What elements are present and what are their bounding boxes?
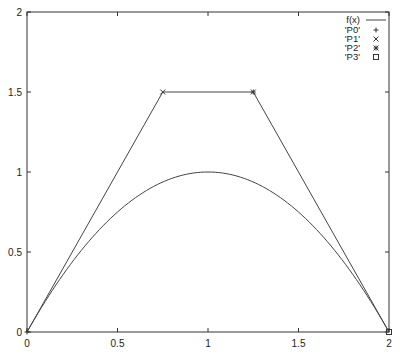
y-tick-label: 0 [16, 327, 22, 338]
series-fx-curve [27, 172, 389, 332]
bezier-chart: 00.511.5200.511.52 f(x)'P0''P1''P2''P3' [0, 0, 402, 356]
legend: f(x)'P0''P1''P2''P3' [345, 14, 386, 62]
y-tick-label: 1.5 [8, 87, 22, 98]
x-tick-label: 0.5 [111, 338, 125, 349]
x-tick-label: 1 [205, 338, 211, 349]
legend-marker-p3-icon [374, 55, 379, 60]
y-tick-label: 1 [16, 167, 22, 178]
x-tick-label: 0 [24, 338, 30, 349]
marker-p2-icon [251, 90, 256, 95]
control-point-markers [25, 90, 392, 335]
y-tick-label: 2 [16, 7, 22, 18]
control-polygon [27, 92, 389, 332]
legend-marker-p2-icon [374, 46, 379, 51]
axis-tick-labels: 00.511.5200.511.52 [8, 7, 392, 350]
marker-p0-icon [25, 330, 30, 335]
legend-marker-p1-icon [374, 37, 379, 42]
x-tick-label: 1.5 [292, 338, 306, 349]
legend-label: 'P3' [345, 51, 360, 62]
legend-marker-p0-icon [374, 28, 379, 33]
y-tick-label: 0.5 [8, 247, 22, 258]
x-tick-label: 2 [386, 338, 392, 349]
